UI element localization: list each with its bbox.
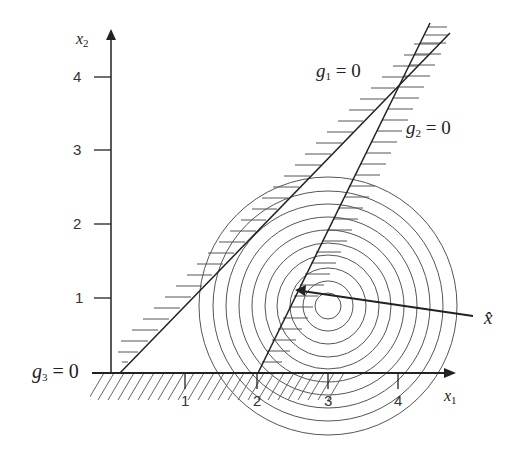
x1-axis-label: x1 [444,387,457,406]
x2-axis-label: x2 [76,30,89,49]
y-tick-1: 1 [75,289,83,306]
g1-label: g1 = 0 [316,60,361,82]
optimum-label: x̂ [484,307,492,329]
y-tick-2: 2 [73,215,81,232]
x-tick-1: 1 [181,392,189,409]
x-tick-2: 2 [253,392,261,409]
y-tick-4: 4 [73,68,81,85]
y-tick-3: 3 [73,141,81,158]
x-tick-4: 4 [394,392,402,409]
optimization-diagram: 4 3 2 1 1 2 3 4 x2 x1 g1 = 0 g2 = 0 g3 =… [0,0,521,454]
g3-hatching [88,373,344,400]
g3-label: g3 = 0 [32,360,79,383]
y-axis-ticks [94,77,111,298]
x-tick-3: 3 [324,392,332,409]
g2-label: g2 = 0 [406,117,451,139]
x2-axis-arrow-icon [106,29,116,40]
optimum-pointer-line [302,291,473,316]
x1-axis-arrow-icon [444,368,456,378]
